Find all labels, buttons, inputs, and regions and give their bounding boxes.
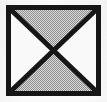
figure-root: Square symbol with crossed diagonals A b…: [0, 0, 107, 102]
crossed-square-symbol: Square symbol with crossed diagonals A b…: [0, 0, 107, 102]
